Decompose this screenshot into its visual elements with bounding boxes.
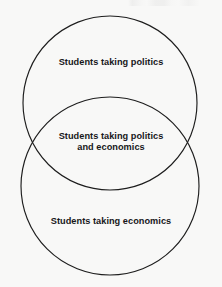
venn-diagram: Students taking politics Students taking… xyxy=(0,0,222,287)
label-politics-and-economics: Students taking politics and economics xyxy=(0,131,222,153)
label-economics-only: Students taking economics xyxy=(0,216,222,227)
politics-circle xyxy=(23,16,197,190)
economics-circle xyxy=(21,97,199,275)
label-politics-only: Students taking politics xyxy=(0,57,222,68)
